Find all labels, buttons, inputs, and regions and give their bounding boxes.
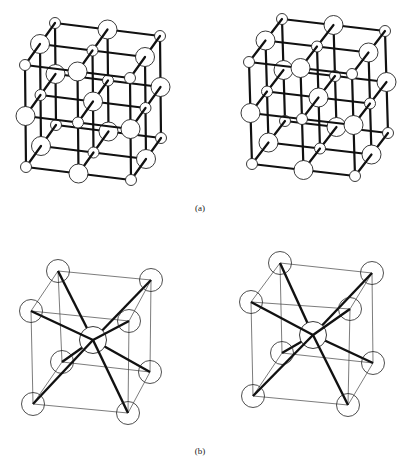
body-diagonal-bond <box>31 311 93 340</box>
cell-edge <box>150 280 151 372</box>
cell-edge <box>128 372 150 413</box>
large-ion <box>16 107 35 126</box>
cell-edge <box>372 273 373 363</box>
bcc-cell-left-view <box>20 260 163 425</box>
large-ion <box>121 120 140 139</box>
body-diagonal-bond <box>251 302 313 335</box>
large-ion <box>294 161 313 180</box>
cell-edge <box>348 309 350 405</box>
body-diagonal-bond <box>313 309 350 335</box>
small-ion <box>126 175 137 186</box>
large-ion <box>241 104 260 123</box>
rocksalt-lattice-left-view <box>16 18 170 186</box>
cell-edge <box>280 263 372 273</box>
small-ion <box>297 114 308 125</box>
small-ion <box>247 159 258 170</box>
cell-edge <box>33 404 128 413</box>
cell-edge <box>280 263 282 353</box>
large-ion <box>344 116 363 135</box>
cell-edge <box>253 353 282 396</box>
cell-edge <box>31 311 33 404</box>
cell-edge <box>31 271 58 311</box>
small-ion <box>347 69 358 80</box>
large-ion <box>291 59 310 78</box>
small-ion <box>125 73 136 84</box>
bcc-cell-right-view <box>240 252 385 417</box>
large-ion <box>69 164 88 183</box>
small-ion <box>20 60 31 71</box>
small-ion <box>73 117 84 128</box>
rocksalt-lattice-right-view <box>241 14 396 182</box>
small-ion <box>21 162 32 173</box>
large-ion <box>68 62 87 81</box>
cell-edge <box>58 271 151 280</box>
cell-edge <box>128 321 129 413</box>
cell-edge <box>253 396 348 405</box>
small-ion <box>350 171 361 182</box>
crystal-structure-figure <box>0 0 402 470</box>
small-ion <box>244 57 255 68</box>
body-diagonal-bond <box>33 340 93 404</box>
caption-a: (a) <box>180 203 220 213</box>
caption-b: (b) <box>180 446 220 456</box>
cell-edge <box>251 263 280 302</box>
cell-edge <box>251 302 253 396</box>
cell-edge <box>58 271 62 362</box>
cell-edge <box>348 363 373 405</box>
body-diagonal-bond <box>253 335 313 396</box>
